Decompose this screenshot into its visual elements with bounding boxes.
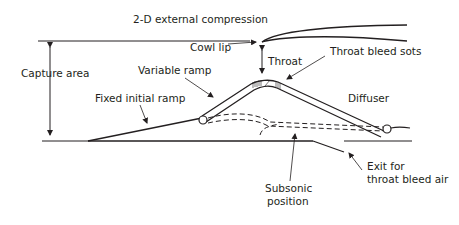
diffuser-wall: [391, 127, 410, 128]
subsonic-position-label-1: Subsonic: [265, 182, 312, 194]
cowl-lip-label: Cowl lip: [190, 41, 231, 53]
fixed-ramp-pointer: [140, 105, 147, 123]
cowl-lip-pointer: [228, 42, 256, 44]
subsonic-position-label-2: position: [267, 195, 309, 207]
exit-bleed-pointer: [349, 153, 362, 170]
variable-ramp-upper: [202, 80, 384, 131]
throat-label: Throat: [267, 55, 302, 67]
throat-bleed-slots-label: Throat bleed sots: [329, 45, 421, 57]
diffuser-label: Diffuser: [348, 92, 390, 104]
variable-ramp-pointer: [185, 78, 213, 97]
cowl-lower-surface: [262, 37, 407, 42]
exit-bleed-label-1: Exit for: [367, 160, 405, 172]
ramp-hinge-front: [199, 116, 207, 124]
subsonic-flow-lines: [208, 114, 383, 135]
diagram-title: 2-D external compression: [133, 13, 268, 25]
exit-bleed-label-2: throat bleed air: [367, 173, 449, 185]
variable-ramp-label: Variable ramp: [138, 64, 212, 76]
ramp-hinge-rear: [383, 125, 391, 133]
bleed-exit-ramp: [313, 141, 344, 152]
fixed-initial-ramp: [88, 118, 202, 141]
capture-area-label: Capture area: [21, 67, 90, 79]
inlet-diagram: 2-D external compression Capture area Co…: [0, 0, 459, 225]
fixed-initial-ramp-label: Fixed initial ramp: [95, 92, 186, 104]
